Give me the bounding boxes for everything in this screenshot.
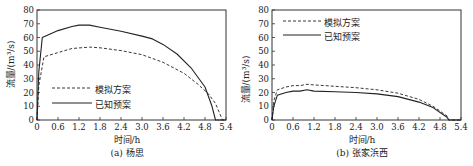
x-tick-label: 0 — [34, 122, 39, 132]
x-tick-label: 3.6 — [391, 122, 405, 132]
x-tick-label: 4.8 — [198, 122, 212, 132]
y-tick-label: 30 — [23, 74, 34, 84]
series-line-known — [272, 90, 461, 120]
y-tick-label: 40 — [23, 60, 34, 70]
legend-label-known: 已知预案 — [95, 98, 131, 111]
x-axis-label: 时间/h — [249, 133, 473, 146]
x-tick-label: 0.6 — [51, 122, 65, 132]
y-tick-label: 30 — [258, 74, 269, 84]
x-tick-label: 2.4 — [349, 122, 363, 132]
y-tick-label: 50 — [23, 46, 34, 56]
x-tick-label: 5.4 — [454, 122, 468, 132]
x-tick-label: 4.2 — [412, 122, 426, 132]
y-tick-label: 50 — [258, 46, 269, 56]
y-tick-label: 0 — [264, 115, 269, 125]
y-tick-label: 60 — [23, 33, 34, 43]
x-axis-label: 时间/h — [14, 133, 240, 146]
x-tick-label: 3.6 — [156, 122, 170, 132]
y-tick-label: 40 — [258, 60, 269, 70]
x-tick-label: 5.4 — [219, 122, 233, 132]
legend-label-known: 已知预案 — [324, 30, 360, 43]
legend-label-simulated: 模拟方案 — [324, 16, 360, 29]
axes-frame — [272, 10, 461, 120]
series-line-simulated — [37, 47, 226, 120]
x-tick-label: 3.0 — [135, 122, 149, 132]
y-tick-label: 80 — [258, 5, 269, 15]
x-tick-label: 1.8 — [328, 122, 342, 132]
x-tick-label: 1.2 — [72, 122, 86, 132]
figure-caption: (a) 杨思 — [14, 146, 240, 159]
series-line-simulated — [272, 84, 461, 120]
y-tick-label: 60 — [258, 33, 269, 43]
x-tick-label: 3.0 — [370, 122, 384, 132]
chart-yangsi: 00.61.21.82.43.03.64.24.85.4010203040506… — [0, 0, 236, 166]
y-axis-label: 流量/(m³/s) — [239, 48, 252, 112]
x-tick-label: 4.8 — [433, 122, 447, 132]
series-line-known — [37, 25, 226, 120]
y-tick-label: 0 — [29, 115, 34, 125]
x-tick-label: 2.4 — [114, 122, 128, 132]
legend-label-simulated: 模拟方案 — [95, 83, 131, 96]
x-tick-label: 0.6 — [286, 122, 300, 132]
y-tick-label: 20 — [23, 88, 34, 98]
y-tick-label: 20 — [258, 88, 269, 98]
x-tick-label: 4.2 — [177, 122, 191, 132]
y-tick-label: 10 — [23, 101, 34, 111]
y-axis-label: 流量/(m³/s) — [4, 33, 17, 97]
figure-caption: (b) 张家浜西 — [249, 146, 473, 159]
chart-zhangjiabangxi: 00.61.21.82.43.03.64.24.85.4010203040506… — [235, 0, 471, 166]
y-tick-label: 70 — [258, 19, 269, 29]
x-tick-label: 0 — [269, 122, 274, 132]
y-tick-label: 70 — [23, 19, 34, 29]
x-tick-label: 1.2 — [307, 122, 321, 132]
y-tick-label: 10 — [258, 101, 269, 111]
x-tick-label: 1.8 — [93, 122, 107, 132]
y-tick-label: 80 — [23, 5, 34, 15]
